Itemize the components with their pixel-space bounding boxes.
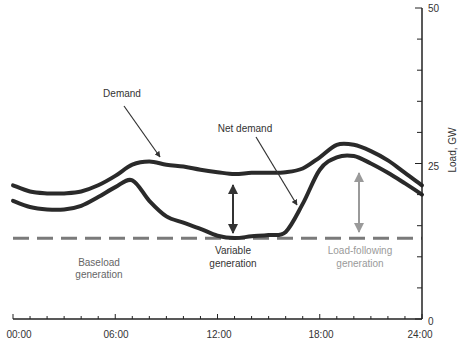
baseload-label-line2: generation: [75, 269, 122, 280]
variable-generation-label-line2: generation: [209, 258, 256, 269]
axes: [13, 8, 422, 319]
load-following-label-line2: generation: [336, 258, 383, 269]
demand-curve: [13, 144, 422, 194]
y-tick-label: 0: [428, 316, 434, 327]
load-following-label-line1: Load-following: [328, 245, 393, 256]
demand-arrow: [124, 106, 160, 157]
x-tick-label: 00:00: [6, 329, 31, 340]
duck-curve-chart: Demand Net demand Baseload generation Va…: [0, 0, 463, 344]
net-demand-label: Net demand: [218, 123, 272, 134]
variable-generation-label-line1: Variable: [215, 245, 251, 256]
demand-label: Demand: [103, 88, 141, 99]
x-tick-label: 12:00: [206, 329, 231, 340]
y-tick-label: 25: [428, 161, 440, 172]
y-tick-label: 50: [428, 3, 440, 14]
series-lines: [13, 144, 422, 238]
x-tick-label: 18:00: [308, 329, 333, 340]
baseload-label-line1: Baseload: [78, 257, 120, 268]
net-demand-curve: [13, 155, 422, 238]
x-tick-label: 24:00: [407, 329, 432, 340]
x-tick-label: 06:00: [103, 329, 128, 340]
y-axis-label: Load, GW: [447, 127, 458, 173]
